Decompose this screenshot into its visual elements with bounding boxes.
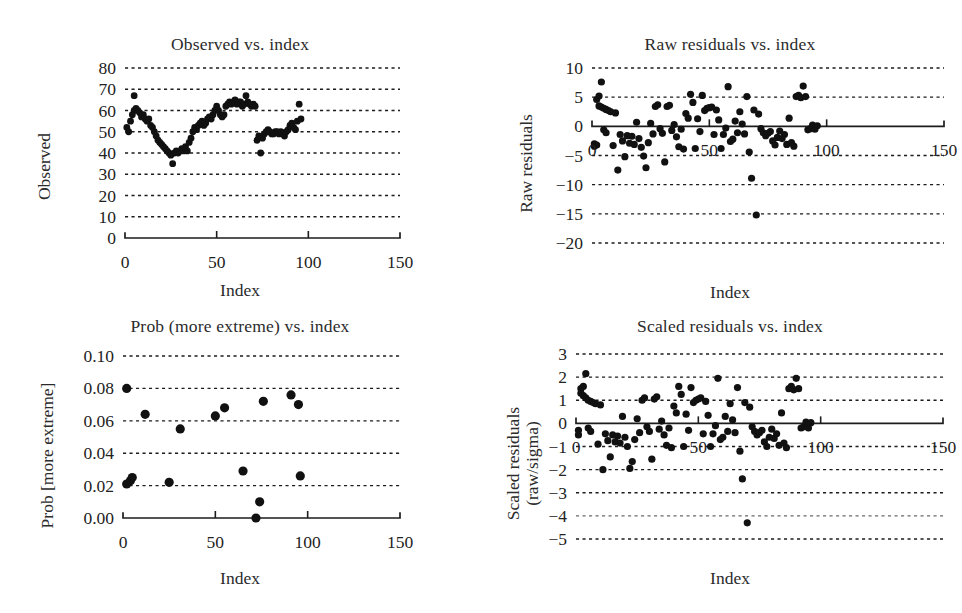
- x-axis-label: Index: [440, 568, 962, 589]
- y-tick-label: 5: [505, 87, 583, 108]
- y-tick-label: 0.06: [36, 410, 114, 431]
- y-tick-label: 70: [38, 79, 116, 100]
- y-tick-label: −10: [505, 174, 583, 195]
- y-tick-label: −3: [489, 482, 567, 503]
- plot-area: −5−4−3−2−10123 050100150: [576, 354, 943, 539]
- x-tick-label: 0: [588, 140, 597, 161]
- x-tick-label: 0: [121, 252, 130, 273]
- y-tick-label: 0: [505, 116, 583, 137]
- x-axis-label: Index: [440, 282, 962, 303]
- plot-area: 0.000.020.040.060.080.10 050100150: [123, 356, 400, 518]
- y-tick-label: 10: [505, 58, 583, 79]
- x-tick-label: 150: [931, 140, 957, 161]
- x-tick-label: 50: [690, 437, 708, 458]
- scatter-canvas-raw-residuals: [592, 68, 944, 248]
- x-tick-label: 150: [387, 252, 413, 273]
- y-tick-label: 50: [38, 121, 116, 142]
- y-tick-label: 1: [489, 390, 567, 411]
- y-tick-label: 0.04: [36, 443, 114, 464]
- y-tick-label: 0.08: [36, 378, 114, 399]
- x-tick-label: 0: [572, 437, 581, 458]
- plot-area: 01020304050607080 050100150: [125, 68, 400, 238]
- scatter-canvas-scaled-residuals: [576, 354, 943, 546]
- x-tick-label: 100: [808, 437, 834, 458]
- x-tick-label: 50: [208, 252, 226, 273]
- y-tick-label: −2: [489, 459, 567, 480]
- panel-observed-vs-index: Observed vs. index Observed Index 010203…: [0, 30, 480, 310]
- x-tick-label: 150: [930, 437, 956, 458]
- y-tick-label: −4: [489, 505, 567, 526]
- y-tick-label: −5: [505, 145, 583, 166]
- plot-svg-wrapper: [123, 356, 400, 524]
- plot-svg-wrapper: [576, 354, 943, 546]
- y-tick-label: 40: [38, 143, 116, 164]
- x-tick-label: 100: [295, 252, 321, 273]
- y-tick-label: −1: [489, 436, 567, 457]
- y-tick-label: 0.00: [36, 508, 114, 529]
- y-tick-label: 20: [38, 185, 116, 206]
- panel-raw-residuals-vs-index: Raw residuals vs. index Raw residuals In…: [480, 30, 953, 310]
- y-tick-label: −20: [505, 233, 583, 254]
- y-tick-label: 0: [489, 413, 567, 434]
- panel-scaled-residuals-vs-index: Scaled residuals vs. index Scaled residu…: [480, 310, 953, 613]
- panel-title: Scaled residuals vs. index: [440, 316, 962, 337]
- panel-prob-more-extreme-vs-index: Prob (more extreme) vs. index Prob [more…: [0, 310, 480, 613]
- panel-title: Raw residuals vs. index: [440, 34, 962, 55]
- plot-svg-wrapper: [592, 68, 944, 248]
- y-tick-label: −15: [505, 203, 583, 224]
- y-tick-label: 30: [38, 164, 116, 185]
- scatter-canvas-prob: [123, 356, 400, 524]
- y-tick-label: 0.10: [36, 346, 114, 367]
- y-tick-label: 0: [38, 228, 116, 249]
- plot-area: −20−15−10−50510 050100150: [592, 68, 944, 243]
- x-tick-label: 50: [701, 140, 719, 161]
- x-tick-label: 0: [119, 532, 128, 553]
- y-tick-label: 3: [489, 344, 567, 365]
- scatter-canvas-observed: [125, 68, 400, 244]
- y-tick-label: 60: [38, 100, 116, 121]
- x-tick-label: 100: [295, 532, 321, 553]
- x-tick-label: 50: [207, 532, 225, 553]
- plot-svg-wrapper: [125, 68, 400, 244]
- y-tick-label: 80: [38, 58, 116, 79]
- x-tick-label: 150: [387, 532, 413, 553]
- x-tick-label: 100: [814, 140, 840, 161]
- y-tick-label: −5: [489, 529, 567, 550]
- y-tick-label: 10: [38, 206, 116, 227]
- y-tick-label: 0.02: [36, 475, 114, 496]
- y-tick-label: 2: [489, 367, 567, 388]
